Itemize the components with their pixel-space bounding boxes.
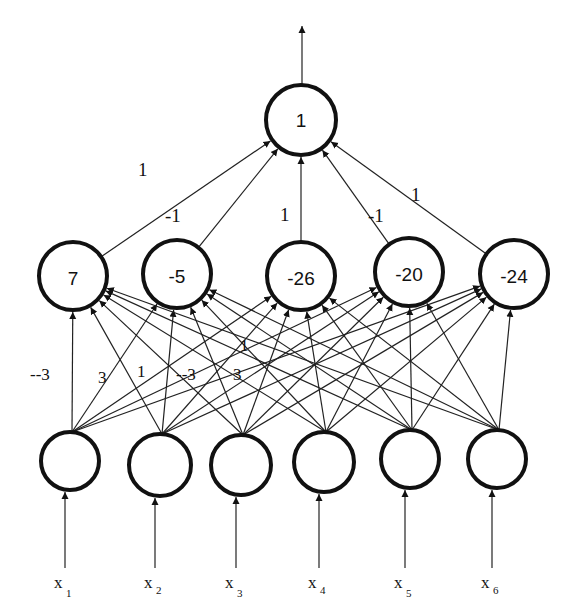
- input-node: [211, 435, 271, 495]
- input-weight-label: 3: [98, 368, 107, 387]
- output-weight-label: 1: [280, 204, 290, 225]
- input-weight-label: 1: [137, 362, 146, 381]
- input-to-hidden-edge: [162, 292, 379, 434]
- input-to-hidden-edge: [412, 304, 494, 430]
- input-label-subscript: 4: [320, 584, 326, 596]
- input-label-subscript: 2: [156, 584, 162, 596]
- input-label: x: [394, 573, 403, 592]
- hidden-node-label: -26: [287, 268, 314, 289]
- input-node: [468, 430, 526, 488]
- input-weight-label: 1: [240, 336, 249, 355]
- input-weight-label: 3: [233, 365, 242, 384]
- input-to-hidden-edge: [329, 298, 499, 430]
- input-to-hidden-edge: [427, 303, 499, 430]
- input-node: [41, 432, 99, 490]
- input-node: [294, 432, 354, 492]
- input-to-hidden-edge: [410, 308, 412, 430]
- input-to-hidden-edge: [162, 310, 174, 434]
- input-label: x: [144, 573, 153, 592]
- input-label-subscript: 5: [406, 587, 412, 599]
- output-weight-label: -1: [368, 205, 384, 226]
- input-to-hidden-edge: [322, 305, 412, 430]
- input-to-hidden-edge: [499, 310, 511, 430]
- input-label: x: [481, 573, 490, 592]
- input-node: [129, 434, 191, 496]
- hidden-node-label: -20: [395, 264, 422, 285]
- input-to-hidden-edge: [162, 289, 481, 434]
- network-nodes: 17-5-26-20-24: [39, 85, 548, 496]
- output-weight-label: -1: [165, 205, 181, 226]
- input-label-subscript: 3: [237, 587, 243, 599]
- input-label: x: [308, 573, 317, 592]
- input-to-hidden-edge: [243, 310, 289, 435]
- input-weight-label: --3: [176, 365, 196, 384]
- weight-labels: x1x2x3x4x5x61-11-11--331--331: [30, 159, 499, 599]
- hidden-to-output-edge: [322, 150, 389, 244]
- hidden-node-label: 7: [68, 268, 79, 289]
- input-label: x: [54, 573, 63, 592]
- input-to-hidden-edge: [72, 287, 376, 432]
- hidden-node-label: -24: [500, 266, 528, 287]
- output-node-label: 1: [296, 110, 307, 131]
- input-node: [381, 430, 439, 488]
- input-to-hidden-edge: [72, 312, 73, 432]
- input-to-hidden-edge: [326, 304, 392, 432]
- neural-network-diagram: 17-5-26-20-24 x1x2x3x4x5x61-11-11--331--…: [0, 0, 576, 608]
- input-to-hidden-edge: [106, 291, 412, 430]
- output-weight-label: 1: [411, 184, 421, 205]
- input-weight-label: --3: [30, 365, 50, 384]
- output-weight-label: 1: [138, 159, 148, 180]
- input-label-subscript: 1: [66, 587, 72, 599]
- input-label-subscript: 6: [493, 584, 499, 596]
- input-label: x: [225, 573, 234, 592]
- hidden-node-label: -5: [169, 266, 186, 287]
